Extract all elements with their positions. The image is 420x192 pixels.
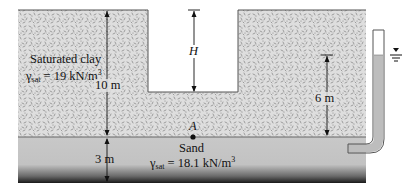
piezometric-height-label: 6 m bbox=[314, 92, 335, 105]
excavation-depth-label: H bbox=[189, 45, 198, 58]
exponent: 3 bbox=[231, 155, 235, 164]
clay-unit-weight: γsat = 19 kN/m3 bbox=[26, 69, 102, 84]
sand-unit-weight-value: = 18.1 kN/m bbox=[168, 156, 232, 170]
clay-unit-weight-value: = 19 kN/m bbox=[44, 69, 98, 83]
subscript: sat bbox=[156, 162, 165, 171]
water-table-icon bbox=[390, 48, 402, 61]
subscript: sat bbox=[32, 75, 41, 84]
exponent: 3 bbox=[98, 68, 102, 77]
sand-layer-label: Sand bbox=[179, 142, 204, 155]
clay-thickness-label: 10 m bbox=[94, 79, 121, 92]
clay-layer-label: Saturated clay bbox=[30, 53, 101, 66]
point-a-label: A bbox=[189, 120, 197, 133]
sand-unit-weight: γsat = 18.1 kN/m3 bbox=[150, 156, 235, 171]
point-a-marker bbox=[190, 134, 195, 139]
sand-thickness-label: 3 m bbox=[95, 153, 114, 166]
